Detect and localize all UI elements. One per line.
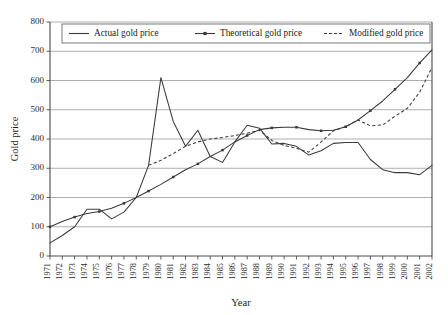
y-tick-label: 800 bbox=[31, 16, 45, 26]
x-tick-label: 1981 bbox=[166, 263, 175, 280]
x-tick-label: 1991 bbox=[289, 263, 298, 280]
y-axis-title: Gold price bbox=[9, 116, 20, 161]
y-tick-label: 100 bbox=[31, 221, 45, 231]
series-marker bbox=[369, 109, 372, 112]
y-tick-label: 700 bbox=[31, 45, 45, 55]
legend-marker-1 bbox=[203, 32, 206, 35]
x-tick-label: 1974 bbox=[80, 262, 89, 279]
series-marker bbox=[98, 210, 101, 213]
y-tick-label: 300 bbox=[31, 162, 45, 172]
x-tick-label: 1985 bbox=[216, 263, 225, 280]
x-tick-label: 2002 bbox=[425, 263, 434, 280]
x-tick-label: 1975 bbox=[92, 263, 101, 280]
x-tick-label: 1999 bbox=[388, 263, 397, 280]
x-tick-label: 1988 bbox=[252, 263, 261, 280]
series-line-2 bbox=[149, 67, 432, 165]
y-tick-label: 600 bbox=[31, 75, 45, 85]
x-tick-label: 1993 bbox=[314, 263, 323, 280]
y-axis-tick-group: 0100200300400500600700800 bbox=[31, 16, 51, 260]
x-axis-title: Year bbox=[231, 297, 251, 308]
x-tick-label: 1976 bbox=[105, 263, 114, 280]
x-tick-label: 1983 bbox=[191, 263, 200, 280]
series-marker bbox=[49, 226, 52, 229]
x-tick-label: 1986 bbox=[228, 263, 237, 280]
x-axis-tick-group: 1971197219731974197519761977197819791980… bbox=[43, 256, 434, 280]
x-tick-label: 1996 bbox=[351, 263, 360, 280]
series-marker bbox=[320, 130, 323, 133]
gridline-group bbox=[50, 22, 432, 227]
x-tick-label: 1995 bbox=[339, 263, 348, 280]
chart-page: 0100200300400500600700800 19711972197319… bbox=[0, 0, 448, 315]
gold-price-line-chart: 0100200300400500600700800 19711972197319… bbox=[0, 0, 448, 315]
series-marker bbox=[418, 62, 421, 64]
x-tick-label: 1977 bbox=[117, 263, 126, 280]
x-tick-label: 1990 bbox=[277, 263, 286, 280]
x-tick-label: 1989 bbox=[265, 263, 274, 280]
x-tick-label: 2001 bbox=[413, 263, 422, 280]
series-line-1 bbox=[50, 50, 432, 227]
legend-label-0: Actual gold price bbox=[94, 28, 159, 38]
series-group bbox=[49, 50, 432, 243]
x-tick-label: 1984 bbox=[203, 262, 212, 279]
x-tick-label: 1992 bbox=[302, 263, 311, 280]
y-tick-label: 500 bbox=[31, 104, 45, 114]
x-tick-label: 1982 bbox=[179, 263, 188, 280]
chart-legend: Actual gold priceTheoretical gold priceM… bbox=[62, 24, 430, 43]
x-tick-label: 1998 bbox=[376, 263, 385, 280]
x-tick-label: 1987 bbox=[240, 263, 249, 280]
x-tick-label: 1978 bbox=[129, 263, 138, 280]
y-tick-label: 0 bbox=[40, 250, 45, 260]
x-tick-label: 1971 bbox=[43, 263, 52, 280]
y-tick-label: 400 bbox=[31, 133, 45, 143]
series-marker bbox=[295, 126, 298, 129]
series-line-0 bbox=[50, 78, 432, 243]
series-marker bbox=[172, 176, 175, 179]
series-marker bbox=[147, 190, 150, 193]
x-tick-label: 1972 bbox=[55, 263, 64, 280]
series-marker bbox=[394, 88, 397, 91]
series-marker bbox=[197, 163, 200, 166]
series-marker bbox=[73, 216, 76, 219]
x-tick-label: 1997 bbox=[363, 263, 372, 280]
series-marker bbox=[271, 127, 274, 130]
x-tick-label: 1980 bbox=[154, 263, 163, 280]
series-marker bbox=[123, 202, 126, 205]
series-marker bbox=[246, 134, 249, 137]
x-tick-label: 2000 bbox=[400, 263, 409, 280]
x-tick-label: 1979 bbox=[142, 263, 151, 280]
y-tick-label: 200 bbox=[31, 192, 45, 202]
series-marker bbox=[221, 149, 224, 152]
legend-label-1: Theoretical gold price bbox=[220, 28, 302, 38]
x-tick-label: 1994 bbox=[326, 262, 335, 279]
legend-label-2: Modified gold price bbox=[349, 28, 423, 38]
x-tick-label: 1973 bbox=[68, 263, 77, 280]
